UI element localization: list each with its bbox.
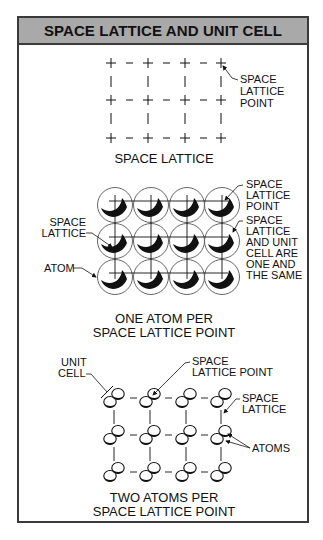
svg-text:POINT: POINT bbox=[246, 200, 280, 212]
callout-space-lattice-point-3: SPACE LATTICE POINT bbox=[153, 355, 273, 395]
callout-atom: ATOM bbox=[44, 262, 96, 277]
caption-two-atoms-line1: TWO ATOMS PER bbox=[110, 490, 219, 505]
caption-space-lattice: SPACE LATTICE bbox=[114, 151, 214, 166]
svg-text:POINT: POINT bbox=[240, 97, 274, 109]
svg-text:LATTICE POINT: LATTICE POINT bbox=[192, 366, 273, 378]
svg-text:SPACE: SPACE bbox=[240, 73, 276, 85]
caption-two-atoms-line2: SPACE LATTICE POINT bbox=[93, 504, 236, 519]
callout-lattice-unit-cell-same: SPACE LATTICE AND UNIT CELL ARE ONE AND … bbox=[233, 214, 302, 281]
svg-text:CELL: CELL bbox=[58, 367, 86, 379]
svg-text:ATOMS: ATOMS bbox=[252, 442, 290, 454]
one-atom-lattice bbox=[98, 188, 240, 295]
space-lattice-grid bbox=[106, 58, 226, 143]
caption-one-atom-line2: SPACE LATTICE POINT bbox=[93, 325, 236, 340]
svg-text:LATTICE: LATTICE bbox=[42, 227, 86, 239]
svg-text:ATOM: ATOM bbox=[44, 262, 75, 274]
lattice-diagram: SPACE LATTICE POINT SPACE LATTICE SPACE … bbox=[0, 0, 323, 540]
callout-atoms: ATOMS bbox=[226, 434, 290, 454]
callout-space-lattice-3: SPACE LATTICE bbox=[224, 392, 286, 415]
svg-text:LATTICE: LATTICE bbox=[242, 403, 286, 415]
two-atom-lattice bbox=[104, 389, 231, 482]
svg-text:THE SAME: THE SAME bbox=[246, 269, 302, 281]
svg-text:LATTICE: LATTICE bbox=[240, 85, 284, 97]
callout-unit-cell: UNIT CELL bbox=[58, 356, 113, 398]
caption-one-atom-line1: ONE ATOM PER bbox=[115, 311, 213, 326]
callout-space-lattice-point-1: SPACE LATTICE POINT bbox=[223, 66, 284, 109]
